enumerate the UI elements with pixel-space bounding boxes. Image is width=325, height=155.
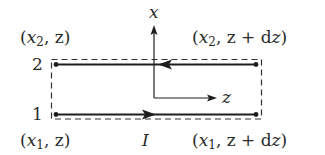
wire-2 (54, 60, 259, 70)
x-axis-label: x (149, 2, 159, 22)
wire-1-endpoint-right (254, 112, 259, 117)
current-loop-diagram: x z 2 1 (x2, z) (x2, z + dz) (x1, z) I (… (0, 0, 325, 155)
z-axis-label: z (221, 87, 232, 107)
corner-label-bottom-right: (x1, z + dz) (192, 130, 287, 152)
wire-1-label: 1 (32, 104, 43, 124)
wire-2-endpoint-left (54, 62, 59, 67)
corner-label-bottom-left: (x1, z) (20, 130, 70, 152)
wire-1-endpoint-left (54, 112, 59, 117)
corner-label-top-left: (x2, z) (20, 27, 70, 49)
wire-1 (54, 110, 259, 120)
current-label: I (141, 130, 149, 150)
corner-label-top-right: (x2, z + dz) (192, 27, 287, 49)
wire-2-label: 2 (32, 54, 43, 74)
wire-2-endpoint-right (254, 62, 259, 67)
